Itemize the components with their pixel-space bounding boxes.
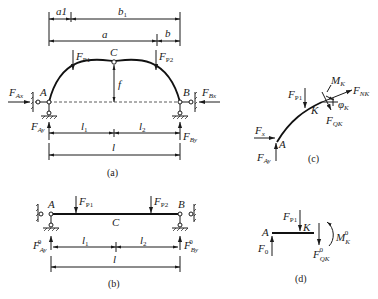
svg-text:l1: l1 [81, 120, 88, 134]
svg-text:A: A [39, 86, 47, 98]
svg-text:K: K [310, 104, 319, 116]
hinge-c [112, 60, 116, 64]
svg-text:B: B [183, 86, 190, 98]
caption-d: (d) [295, 273, 307, 285]
panel-a: a1 b1 a b C f FP1 FP2 [8, 5, 220, 179]
svg-text:A: A [278, 138, 286, 150]
svg-text:FAy: FAy [30, 120, 46, 134]
svg-text:FP1: FP1 [78, 195, 94, 209]
svg-text:C: C [112, 216, 120, 228]
svg-text:MK0: MK0 [335, 229, 350, 246]
svg-text:FBx: FBx [201, 86, 217, 100]
svg-text:F0: F0 [257, 242, 269, 256]
svg-text:FAy: FAy [256, 151, 272, 165]
svg-text:K: K [302, 221, 311, 233]
svg-text:FP2: FP2 [158, 50, 174, 64]
arch-diagram: a1 b1 a b C f FP1 FP2 [0, 0, 378, 299]
svg-text:f: f [118, 78, 123, 90]
svg-text:FNK: FNK [352, 84, 369, 98]
svg-text:A: A [261, 226, 269, 238]
svg-text:l1: l1 [82, 234, 89, 248]
caption-a: (a) [107, 167, 118, 179]
diagram-canvas: a1 b1 a b C f FP1 FP2 [0, 0, 378, 299]
svg-text:C: C [110, 46, 118, 58]
svg-text:FQK: FQK [325, 114, 343, 128]
svg-text:A: A [47, 198, 55, 210]
svg-text:FP1: FP1 [287, 88, 303, 102]
caption-b: (b) [108, 278, 120, 290]
svg-text:b1: b1 [118, 5, 128, 19]
svg-text:FP1: FP1 [282, 210, 298, 224]
svg-text:l2: l2 [139, 120, 146, 134]
svg-text:l: l [113, 253, 116, 265]
svg-text:b: b [165, 27, 171, 39]
panel-b: A B FP1 FP2 C FAy0 FBy0 l1 l2 [32, 195, 199, 290]
svg-text:FAx: FAx [8, 86, 24, 100]
svg-text:l: l [112, 141, 115, 153]
svg-text:φK: φK [338, 98, 349, 112]
svg-text:Fx: Fx [254, 124, 266, 138]
svg-text:FQK0: FQK0 [312, 246, 330, 263]
svg-text:FP2: FP2 [153, 195, 169, 209]
svg-text:B: B [178, 198, 185, 210]
svg-text:FBy0: FBy0 [183, 238, 199, 254]
dimension-top: a1 b1 a b [49, 5, 180, 46]
svg-text:l2: l2 [140, 234, 147, 248]
panel-c: Fx A FAy FP1 K FQK FNK MK φK (c) [254, 74, 369, 165]
svg-text:FBy: FBy [182, 130, 198, 144]
svg-text:a1: a1 [56, 5, 67, 17]
svg-text:a: a [102, 28, 108, 40]
caption-c: (c) [308, 153, 319, 165]
panel-d: A F0 FP1 K FQK0 MK0 (d) [257, 210, 350, 285]
svg-text:MK: MK [330, 74, 345, 88]
svg-text:FP1: FP1 [75, 50, 91, 64]
svg-text:FAy0: FAy0 [32, 238, 48, 254]
